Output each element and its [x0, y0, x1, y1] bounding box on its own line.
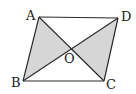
label-a: A — [25, 8, 36, 23]
label-b: B — [11, 75, 21, 90]
label-o: O — [64, 51, 75, 66]
triangle-aob-shaded — [23, 17, 71, 81]
label-d: D — [121, 9, 131, 24]
label-c: C — [106, 77, 116, 92]
side-ad — [39, 17, 118, 18]
parallelogram-diagram: A D B C O — [0, 0, 136, 94]
